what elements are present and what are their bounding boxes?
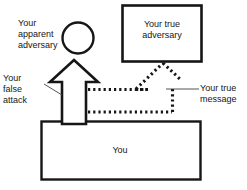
false-attack-leader-line — [44, 84, 62, 95]
apparent-adversary-circle — [63, 23, 94, 54]
label-true-adversary: Your true adversary — [127, 19, 197, 41]
true-message-arrowhead-left-barb — [136, 63, 163, 89]
true-message-arrowhead-right-barb — [163, 63, 181, 80]
diagram-canvas: Your apparent adversary Your false attac… — [0, 0, 247, 190]
label-true-message: Your true message — [200, 83, 246, 105]
label-false-attack: Your false attack — [3, 73, 45, 106]
label-apparent-adversary: Your apparent adversary — [18, 18, 64, 51]
label-you: You — [85, 145, 155, 156]
